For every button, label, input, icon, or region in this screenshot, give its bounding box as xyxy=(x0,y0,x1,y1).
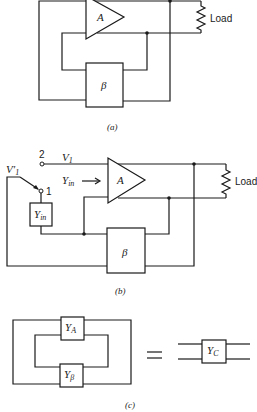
c-outer-top-right-wire xyxy=(83,320,131,384)
c-inner-left-wire xyxy=(35,335,61,367)
a-beta-label: β xyxy=(100,79,107,91)
b-yin-to-beta-wire xyxy=(41,226,84,234)
b-beta-right-wire xyxy=(145,198,169,234)
feedback-amplifier-diagram: A β Load (a) A Yin xyxy=(0,0,257,412)
b-junction-dot-left xyxy=(82,232,86,236)
part-c: YA Yβ YC (c) xyxy=(13,317,250,410)
part-b: A Yin β 2 1 V1 V′1 Yin Load (b) xyxy=(6,149,257,296)
b-beta-label: β xyxy=(121,246,128,258)
b-amplifier-triangle xyxy=(108,158,145,203)
a-caption: (a) xyxy=(107,122,118,132)
b-junction-dot-top xyxy=(192,162,196,166)
a-load-resistor-icon xyxy=(197,1,205,33)
c-inner-right-wire xyxy=(83,335,108,367)
a-junction-dot-inner xyxy=(145,31,149,35)
a-inner-right-wire xyxy=(123,33,147,70)
b-v1-label: V1 xyxy=(62,151,73,165)
b-yin-arrow-label: Yin xyxy=(62,174,74,188)
c-outer-top-left-wire xyxy=(13,320,61,384)
b-load-label: Load xyxy=(235,176,257,187)
a-load-label: Load xyxy=(210,13,232,24)
c-caption: (c) xyxy=(125,400,135,410)
b-v1-prime-label: V′1 xyxy=(6,163,19,177)
part-a: A β Load (a) xyxy=(39,0,232,132)
a-junction-dot-top xyxy=(168,0,172,3)
b-caption: (b) xyxy=(115,286,126,296)
b-junction-dot-bottom xyxy=(167,196,171,200)
b-terminal-2[interactable] xyxy=(40,162,44,166)
a-amplifier-label: A xyxy=(96,11,104,23)
b-load-resistor-icon xyxy=(222,164,230,198)
b-amplifier-label: A xyxy=(116,174,124,186)
b-outer-loop-wire xyxy=(7,177,107,266)
b-terminal-1-label: 1 xyxy=(46,186,52,197)
b-terminal-1[interactable] xyxy=(39,189,43,193)
a-inner-loop-wire xyxy=(62,33,86,70)
b-terminal-2-label: 2 xyxy=(39,149,45,160)
b-inverting-input-wire xyxy=(84,197,108,234)
